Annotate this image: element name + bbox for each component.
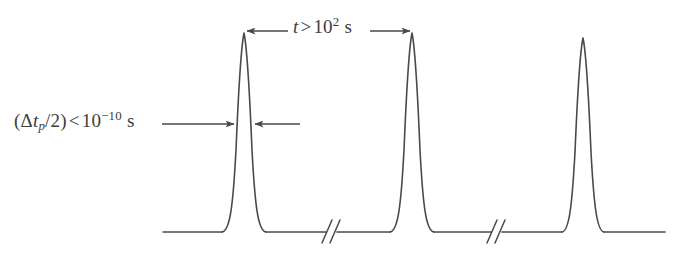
- pulse-width-close-paren: ): [60, 110, 67, 131]
- pulse-width-delta: Δ: [21, 110, 33, 131]
- pulse-width-exponent: −10: [101, 108, 122, 123]
- period-unit: s: [344, 16, 352, 37]
- period-mantissa: 10: [313, 16, 332, 37]
- pulse-trace-group: [163, 33, 665, 232]
- pulse-width-unit: s: [127, 110, 135, 131]
- period-exponent: 2: [333, 14, 340, 29]
- pulse-width-divider: /2: [45, 110, 60, 131]
- period-relation: >: [298, 16, 313, 37]
- pulse-width-mantissa: 10: [82, 110, 101, 131]
- pulse-width-relation: <: [67, 110, 82, 131]
- pulse-timing-figure: t>102 s (Δtp/2)<10−10 s: [0, 0, 676, 262]
- pulse-curve-3: [562, 38, 604, 232]
- pulse-curve-1: [222, 33, 266, 232]
- pulse-curve-2: [390, 33, 434, 232]
- period-label: t>102 s: [293, 14, 352, 38]
- pulse-width-label: (Δtp/2)<10−10 s: [14, 108, 135, 134]
